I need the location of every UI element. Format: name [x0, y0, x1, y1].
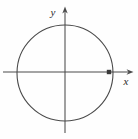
- x-axis-label: x: [123, 75, 129, 87]
- math-figure-canvas: y x: [0, 0, 138, 139]
- y-axis-label: y: [50, 6, 56, 18]
- point-marker: [107, 70, 111, 74]
- coordinate-plane-diagram: y x: [0, 0, 138, 139]
